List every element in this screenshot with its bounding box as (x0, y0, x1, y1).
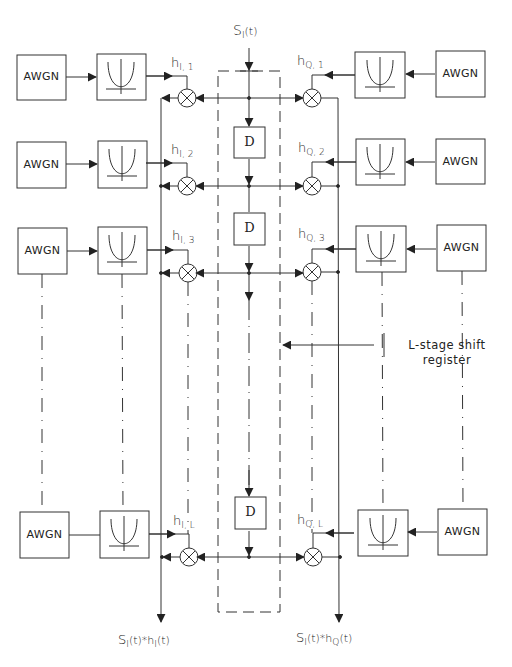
multiplier-right-L (304, 548, 322, 566)
output-label-left: SI(t)*hI(t) (118, 632, 170, 649)
multiplier-left-2 (178, 177, 196, 195)
awgn-label-right-3: AWGN (437, 241, 486, 254)
awgn-label-right-2: AWGN (436, 155, 485, 168)
tap-label-right-2: hQ, 2 (298, 140, 325, 157)
shift-register-label: L-stage shift register (386, 338, 508, 368)
multiplier-right-1 (303, 89, 321, 107)
delay-label-1: D (234, 134, 265, 149)
delay-label-L: D (235, 504, 266, 519)
input-signal-label: SI(t) (233, 22, 257, 40)
multiplier-left-L (180, 548, 198, 566)
multiplier-right-3 (303, 263, 321, 281)
tap-label-right-L: hQ, L (297, 512, 323, 529)
multiplier-left-1 (178, 89, 196, 107)
tap-label-left-3: hI, 3 (172, 228, 194, 245)
output-label-right: SI(t)*hQ(t) (296, 630, 352, 647)
tap-label-right-1: hQ, 1 (297, 53, 324, 70)
awgn-label-right-1: AWGN (436, 67, 485, 80)
tap-label-left-L: hI, L (173, 513, 195, 530)
awgn-label-left-1: AWGN (17, 70, 66, 83)
tap-label-left-1: hI, 1 (171, 55, 193, 72)
tap-label-left-2: hI, 2 (171, 142, 193, 159)
awgn-label-left-3: AWGN (18, 244, 67, 257)
awgn-label-left-L: AWGN (20, 528, 69, 541)
filter-glyphs (106, 57, 398, 551)
delay-label-2: D (234, 220, 265, 235)
awgn-label-left-2: AWGN (17, 158, 66, 171)
tapped-delay-line-diagram (0, 0, 512, 667)
awgn-label-right-L: AWGN (438, 525, 487, 538)
multiplier-right-2 (303, 177, 321, 195)
multiplier-left-3 (179, 264, 197, 282)
tap-label-right-3: hQ, 3 (298, 226, 325, 243)
